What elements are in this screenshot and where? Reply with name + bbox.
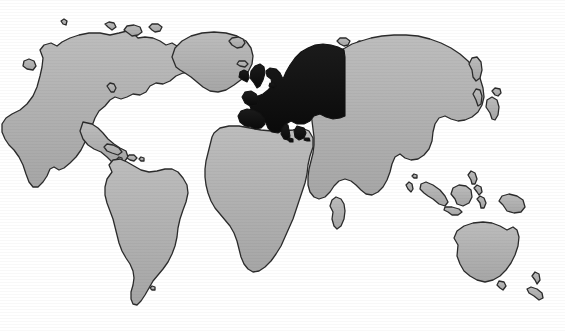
region-small-islet-indian (412, 174, 417, 178)
region-crete (304, 138, 310, 141)
region-balkans (294, 126, 306, 140)
world-map-figure (0, 0, 565, 332)
world-map-svg (0, 0, 565, 332)
region-puerto-rico (139, 157, 144, 161)
region-sicily (288, 138, 293, 142)
region-falkland-islet (150, 286, 155, 290)
